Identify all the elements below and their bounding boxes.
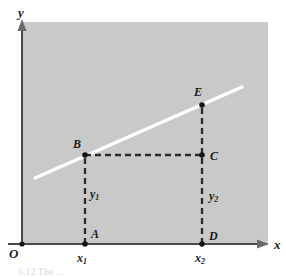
point-b [82,152,88,158]
segment-label-y2: y2 [209,190,218,202]
point-label-d: D [209,230,218,242]
point-e [199,102,205,108]
tick-label-x2-subscript: 2 [201,257,205,266]
straight-line [35,87,242,178]
segment-label-y1: y1 [90,188,99,200]
point-label-e: E [194,86,202,98]
tick-label-x2: x2 [195,252,205,264]
geometry-figure: y x O B C E A D y1 y2 x1 x2 6.12 The ... [0,0,286,277]
point-label-b: B [73,138,81,150]
tick-label-x1-subscript: 1 [83,257,87,266]
segment-label-y2-subscript: 2 [214,195,218,204]
point-label-c: C [210,150,218,162]
point-a [82,241,88,247]
x-axis-arrowhead [257,240,269,249]
point-label-a: A [91,228,99,240]
tick-label-x1: x1 [77,252,87,264]
origin-label: O [9,247,18,260]
figure-graphics [0,0,286,277]
segment-label-y1-subscript: 1 [95,193,99,202]
point-c [199,152,205,158]
point-origin [19,241,24,246]
figure-caption: 6.12 The ... [18,266,63,277]
y-axis-label: y [18,6,24,19]
point-d [199,241,205,247]
y-axis-arrowhead [18,19,27,31]
x-axis-label: x [274,238,281,251]
